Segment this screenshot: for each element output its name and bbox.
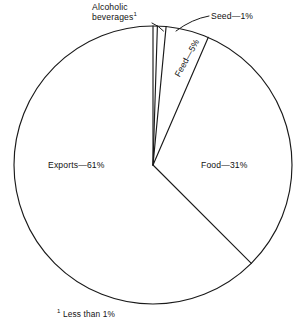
slice-label-exports: Exports—61% bbox=[48, 160, 105, 170]
pie-chart-svg bbox=[0, 0, 302, 328]
pie-chart-figure: Alcoholic beverages1 Seed—1% Feed—5% Exp… bbox=[0, 0, 302, 328]
slice-label-alcoholic-line2: beverages bbox=[92, 12, 133, 22]
slice-label-food: Food—31% bbox=[201, 160, 248, 170]
slice-label-alcoholic-beverages: Alcoholic beverages1 bbox=[92, 2, 164, 23]
chart-footnote: 1 Less than 1% bbox=[57, 309, 115, 319]
footnote-text: Less than 1% bbox=[63, 309, 115, 319]
slice-label-seed: Seed—1% bbox=[211, 11, 253, 21]
footnote-marker-alcoholic: 1 bbox=[133, 12, 137, 18]
slice-label-alcoholic-line1: Alcoholic bbox=[92, 2, 128, 12]
footnote-marker: 1 bbox=[57, 308, 61, 314]
slice-edge-food-exports bbox=[153, 165, 251, 263]
